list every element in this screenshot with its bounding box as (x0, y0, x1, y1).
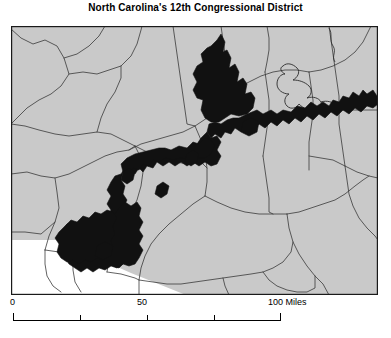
scale-bar-graphic (0, 311, 300, 327)
map-svg (11, 26, 378, 295)
page-title: North Carolina's 12th Congressional Dist… (0, 2, 391, 14)
scale-label-50: 50 (137, 297, 147, 307)
scale-label-100-miles: 100 Miles (268, 297, 307, 307)
scale-bar: 0 50 100 Miles (0, 297, 391, 333)
map-canvas[interactable] (11, 26, 378, 295)
scale-label-0: 0 (10, 297, 15, 307)
map-figure: North Carolina's 12th Congressional Dist… (0, 0, 391, 338)
